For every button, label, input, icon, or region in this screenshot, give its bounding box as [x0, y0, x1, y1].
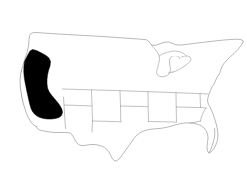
us-map-svg — [0, 0, 247, 173]
us-map-figure — [0, 0, 247, 173]
